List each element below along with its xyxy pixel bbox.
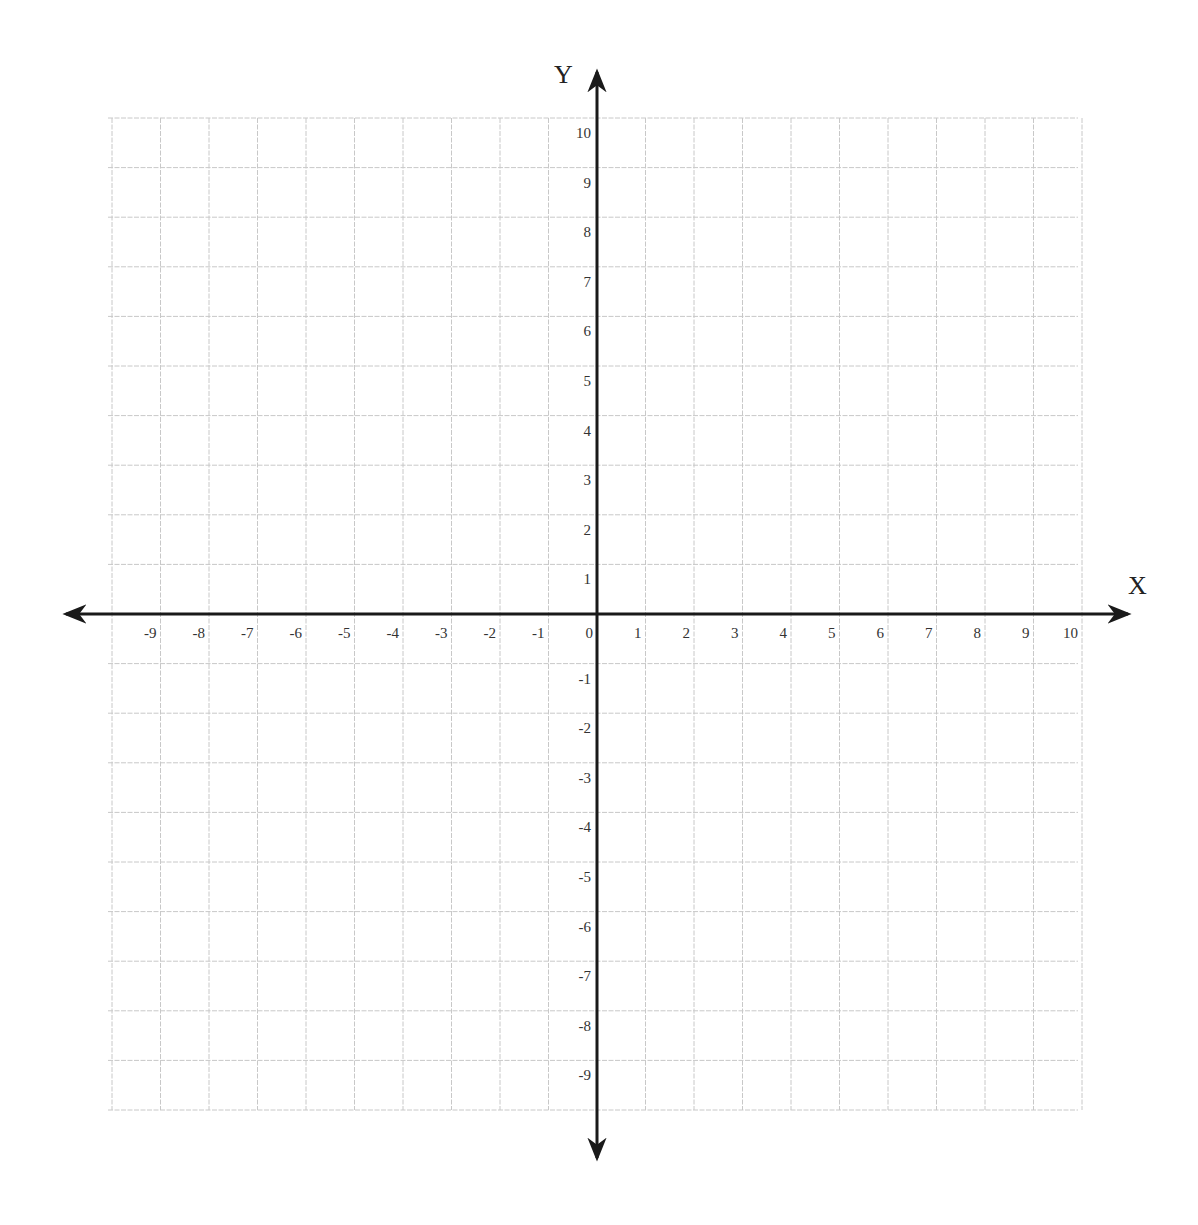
y-tick-label: 3	[584, 472, 592, 488]
x-tick-label: -7	[241, 625, 254, 641]
y-tick-label: -8	[579, 1018, 592, 1034]
x-tick-label: 0	[586, 625, 594, 641]
y-tick-label: -1	[579, 671, 592, 687]
y-tick-label: 8	[584, 224, 592, 240]
x-tick-label: -6	[290, 625, 303, 641]
x-tick-label: -4	[387, 625, 400, 641]
x-tick-label: 4	[780, 625, 788, 641]
y-tick-label: -2	[579, 720, 592, 736]
y-tick-label: -6	[579, 919, 592, 935]
y-tick-label: 4	[584, 423, 592, 439]
x-tick-label: -9	[144, 625, 157, 641]
y-tick-labels: 10987654321-1-2-3-4-5-6-7-8-9	[576, 125, 592, 1083]
x-tick-label: 10	[1063, 625, 1078, 641]
x-tick-labels: -9-8-7-6-5-4-3-2-1012345678910	[144, 625, 1078, 641]
x-tick-label: 3	[731, 625, 739, 641]
x-tick-label: 7	[925, 625, 933, 641]
y-tick-label: 5	[584, 373, 592, 389]
x-tick-label: 1	[634, 625, 642, 641]
x-tick-label: -3	[435, 625, 448, 641]
y-axis-title: Y	[554, 60, 573, 89]
x-tick-label: 5	[828, 625, 836, 641]
coordinate-plane: -9-8-7-6-5-4-3-2-1012345678910 109876543…	[0, 0, 1198, 1225]
y-tick-label: -4	[579, 819, 592, 835]
x-tick-label: -5	[338, 625, 351, 641]
y-tick-label: 2	[584, 522, 592, 538]
x-tick-label: 9	[1022, 625, 1030, 641]
y-tick-label: 9	[584, 175, 592, 191]
axes	[66, 72, 1128, 1158]
y-tick-label: -9	[579, 1067, 592, 1083]
x-axis-title: X	[1128, 571, 1147, 600]
x-tick-label: 2	[683, 625, 691, 641]
y-tick-label: -3	[579, 770, 592, 786]
y-tick-label: 1	[584, 571, 592, 587]
x-tick-label: -8	[193, 625, 206, 641]
y-tick-label: 6	[584, 323, 592, 339]
x-tick-label: 8	[974, 625, 982, 641]
y-tick-label: 10	[576, 125, 591, 141]
x-tick-label: 6	[877, 625, 885, 641]
y-tick-label: -5	[579, 869, 592, 885]
x-tick-label: -1	[532, 625, 545, 641]
y-tick-label: 7	[584, 274, 592, 290]
x-tick-label: -2	[484, 625, 497, 641]
y-tick-label: -7	[579, 968, 592, 984]
